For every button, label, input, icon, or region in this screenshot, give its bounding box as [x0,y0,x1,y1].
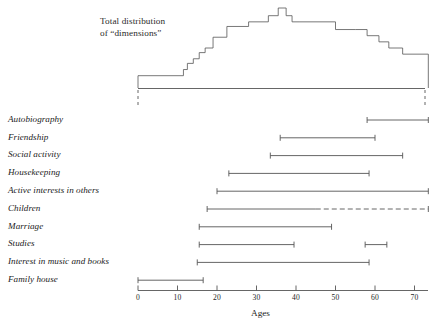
range-bar-row [367,117,428,123]
x-axis-tick-label: 40 [284,293,308,302]
x-axis-tick-label: 20 [205,293,229,302]
range-bars-group [138,117,428,283]
x-axis-title: Ages [0,308,441,318]
x-axis-tick-label: 10 [166,293,190,302]
range-bar-row [270,153,402,159]
x-axis-tick-label: 60 [363,293,387,302]
range-bar-row [199,242,387,248]
x-axis-ticks [138,286,415,291]
range-bar-row [199,224,331,230]
range-bar-row [229,170,369,176]
range-bar-row [217,188,428,194]
range-bar-row [280,135,375,141]
range-bar-row [207,206,428,212]
x-axis-tick-label: 70 [403,293,427,302]
range-bar-row [197,259,369,265]
x-axis-tick-label: 0 [126,293,150,302]
range-bars-plot [0,0,441,327]
x-axis-title-text: Ages [251,308,270,318]
range-bar-row [138,277,203,283]
x-axis-tick-label: 50 [324,293,348,302]
x-axis-tick-label: 30 [245,293,269,302]
chart-canvas: Total distribution of “dimensions” Autob… [0,0,441,327]
